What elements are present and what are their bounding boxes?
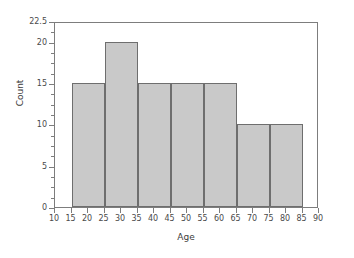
x-axis-tick [87,208,88,213]
y-axis-minor-tick [51,198,54,199]
histogram-bar [72,83,105,207]
x-axis-title-text: Age [177,232,194,242]
x-axis-tick [120,208,121,213]
histogram-bar [204,83,237,207]
y-axis-tick [49,84,54,85]
histogram-bar [237,124,270,207]
y-axis-tick-label: 10 [37,121,47,129]
y-axis-tick-label: 20 [37,39,47,47]
x-axis-tick-label: 90 [306,215,330,223]
histogram-bar [171,83,204,207]
y-axis-tick-label: 22.5 [29,18,47,26]
x-axis-tick [252,208,253,213]
y-axis-minor-tick [51,32,54,33]
x-axis-title: Age [54,232,318,242]
x-axis-tick [186,208,187,213]
x-axis-tick [285,208,286,213]
y-axis-minor-tick [51,177,54,178]
plot-frame [54,22,318,208]
y-axis-tick-label: 15 [37,80,47,88]
y-axis-title: Count [14,0,26,186]
y-axis-minor-tick [51,146,54,147]
x-axis-tick [219,208,220,213]
y-axis-minor-tick [51,53,54,54]
x-axis-tick [302,208,303,213]
y-axis-tick [49,22,54,23]
x-axis-tick [170,208,171,213]
y-axis-tick [49,43,54,44]
x-axis-tick [137,208,138,213]
histogram-bar [105,42,138,207]
y-axis-title-text: Count [15,80,25,107]
y-axis-tick [49,167,54,168]
x-axis-tick [318,208,319,213]
y-axis-minor-tick [51,105,54,106]
y-axis-minor-tick [51,187,54,188]
x-axis-tick [203,208,204,213]
x-axis-tick [54,208,55,213]
y-axis-minor-tick [51,115,54,116]
histogram-bar [270,124,303,207]
x-axis-tick [236,208,237,213]
y-axis-minor-tick [51,136,54,137]
y-axis-minor-tick [51,63,54,64]
y-axis-minor-tick [51,94,54,95]
x-axis-tick [71,208,72,213]
y-axis-tick-label: 5 [42,163,47,171]
histogram-chart: Count Age 0510152022.5101520253035404550… [0,0,354,258]
y-axis-tick-label: 0 [42,204,47,212]
histogram-bar [138,83,171,207]
y-axis-minor-tick [51,156,54,157]
x-axis-tick [153,208,154,213]
plot-area [55,23,317,207]
x-axis-tick [269,208,270,213]
y-axis-tick [49,125,54,126]
x-axis-tick [104,208,105,213]
y-axis-minor-tick [51,74,54,75]
